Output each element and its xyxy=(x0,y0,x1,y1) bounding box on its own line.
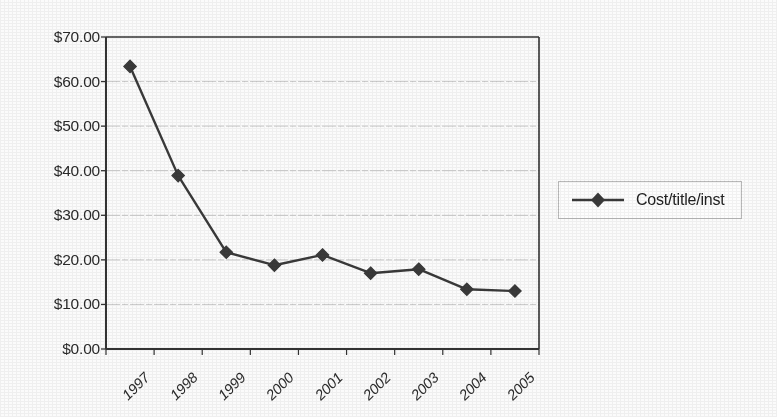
x-tick-label: 2000 xyxy=(263,369,297,403)
x-axis-labels: 199719981999200020012002200320042005 xyxy=(0,0,560,417)
x-tick-label: 2002 xyxy=(359,369,393,403)
x-tick-label: 2001 xyxy=(311,369,345,403)
chart-page: $0.00$10.00$20.00$30.00$40.00$50.00$60.0… xyxy=(0,0,777,417)
line-chart: $0.00$10.00$20.00$30.00$40.00$50.00$60.0… xyxy=(0,0,560,417)
x-tick-label: 2005 xyxy=(504,369,538,403)
x-tick-label: 1998 xyxy=(167,369,201,403)
legend-label-cost-title-inst: Cost/title/inst xyxy=(636,191,725,209)
diamond-marker-icon xyxy=(570,191,626,209)
x-tick-label: 1997 xyxy=(119,369,153,403)
chart-legend: Cost/title/inst xyxy=(558,181,742,219)
x-tick-label: 2003 xyxy=(408,369,442,403)
x-tick-label: 1999 xyxy=(215,369,249,403)
x-tick-label: 2004 xyxy=(456,369,490,403)
